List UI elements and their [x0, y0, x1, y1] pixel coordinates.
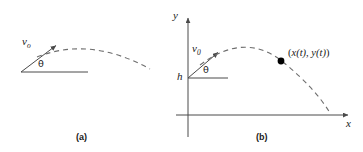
projectile-motion-figure: vo θ (a) y x h v0 θ (x(t), y(t)) (b) — [0, 0, 363, 152]
panel-a-velocity-label: vo — [22, 36, 31, 50]
panel-b-position-label-text: x(t), y(t) — [292, 47, 326, 58]
panel-b-velocity-label: v0 — [192, 43, 201, 57]
panel-a-caption: (a) — [76, 132, 87, 142]
panel-b-position-dot — [278, 58, 285, 65]
panel-b-angle-label: θ — [203, 65, 209, 75]
panel-b-y-axis-label: y — [173, 10, 178, 21]
panel-a-angle-label: θ — [38, 59, 44, 69]
panel-b-caption: (b) — [256, 132, 268, 142]
panel-b-graphic — [176, 18, 348, 137]
panel-b-x-axis-label: x — [346, 118, 351, 129]
panel-a-velocity-subscript: o — [27, 41, 31, 50]
panel-b-velocity-subscript: 0 — [197, 48, 201, 57]
panel-b-position-label: (x(t), y(t)) — [288, 48, 329, 59]
panel-a-trajectory-curve — [37, 49, 150, 69]
panel-b-height-label: h — [177, 71, 183, 82]
